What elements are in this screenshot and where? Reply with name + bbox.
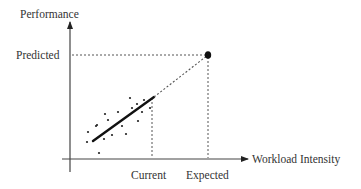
- scatter-point: [117, 111, 119, 113]
- fit-line: [93, 97, 154, 141]
- scatter-point: [129, 97, 131, 99]
- scatter-point: [107, 119, 109, 121]
- scatter-point: [131, 107, 133, 109]
- scatter-point: [141, 111, 143, 113]
- performance-prediction-diagram: Performance Workload Intensity Predicted…: [0, 0, 361, 189]
- scatter-point: [121, 125, 123, 127]
- expected-label: Expected: [186, 169, 229, 182]
- scatter-point: [95, 125, 97, 127]
- scatter-point: [87, 131, 89, 133]
- predicted-label: Predicted: [16, 49, 60, 61]
- scatter-point: [104, 113, 106, 115]
- scatter-point: [125, 133, 127, 135]
- scatter-point: [111, 134, 113, 136]
- extrapolation-line: [154, 55, 208, 97]
- scatter-point: [103, 138, 105, 140]
- y-axis-label: Performance: [20, 8, 79, 20]
- predicted-point: [205, 51, 211, 59]
- scatter-point: [136, 103, 138, 105]
- scatter-point: [98, 152, 100, 154]
- current-label: Current: [131, 169, 167, 181]
- scatter-point: [86, 141, 88, 143]
- scatter-point: [149, 107, 151, 109]
- scatter-point: [137, 120, 139, 122]
- x-axis-label: Workload Intensity: [252, 153, 340, 166]
- scatter-point: [143, 99, 145, 101]
